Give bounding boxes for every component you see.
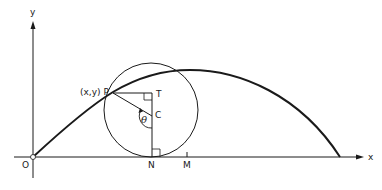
point-p-label: (x,y) P	[80, 87, 109, 97]
point-n-label: N	[148, 160, 155, 170]
y-axis-arrow-icon	[31, 21, 36, 29]
right-angle-t	[144, 93, 152, 100]
cycloid-diagram: y x O (x,y) P T C N M θ	[0, 0, 382, 190]
x-axis-label: x	[368, 152, 374, 162]
cycloid-curve	[33, 70, 340, 157]
point-t-label: T	[155, 89, 162, 99]
rolling-circle	[104, 63, 198, 157]
segment-pc	[113, 93, 152, 116]
y-axis-label: y	[30, 7, 36, 17]
origin-label: O	[22, 160, 29, 170]
point-c-label: C	[155, 110, 161, 120]
angle-theta-label: θ	[141, 114, 147, 125]
origin-point	[31, 155, 36, 160]
right-angle-n	[152, 149, 160, 157]
point-m-label: M	[183, 160, 191, 170]
x-axis-arrow-icon	[356, 155, 364, 160]
